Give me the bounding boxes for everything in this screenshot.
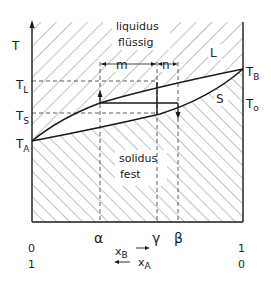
xA-left-value: 1 — [28, 258, 35, 271]
beta-label: β — [174, 230, 183, 246]
solidus-curve-label: S — [216, 92, 224, 106]
TL-label: TL — [15, 78, 28, 95]
fluessig-region-label: flüssig — [118, 36, 153, 49]
liquidus-region-label: liquidus — [116, 20, 159, 33]
TS-label: TS — [15, 109, 29, 126]
n-label: n — [162, 58, 170, 72]
T0-label: To — [245, 97, 259, 113]
fest-region-label: fest — [120, 168, 141, 181]
alpha-label: α — [94, 230, 103, 246]
gamma-label: γ — [152, 230, 160, 246]
m-label: m — [116, 58, 128, 72]
xB-label: xB — [115, 245, 128, 260]
xB-left-value: 0 — [28, 242, 35, 255]
y-axis-label: T — [11, 39, 20, 53]
TA-label: TA — [15, 137, 30, 154]
phase-diagram: T TL TS TA TB To liquidus flüssig solidu… — [0, 0, 271, 282]
solidus-region-label: solidus — [119, 152, 158, 165]
TB-label: TB — [245, 65, 260, 82]
liquidus-curve-label: L — [210, 46, 217, 60]
xA-right-value: 0 — [238, 258, 245, 271]
xA-arrow-icon — [114, 260, 119, 264]
xB-arrow-icon — [145, 246, 150, 250]
xA-label: xA — [138, 256, 152, 271]
xB-right-value: 1 — [238, 242, 245, 255]
